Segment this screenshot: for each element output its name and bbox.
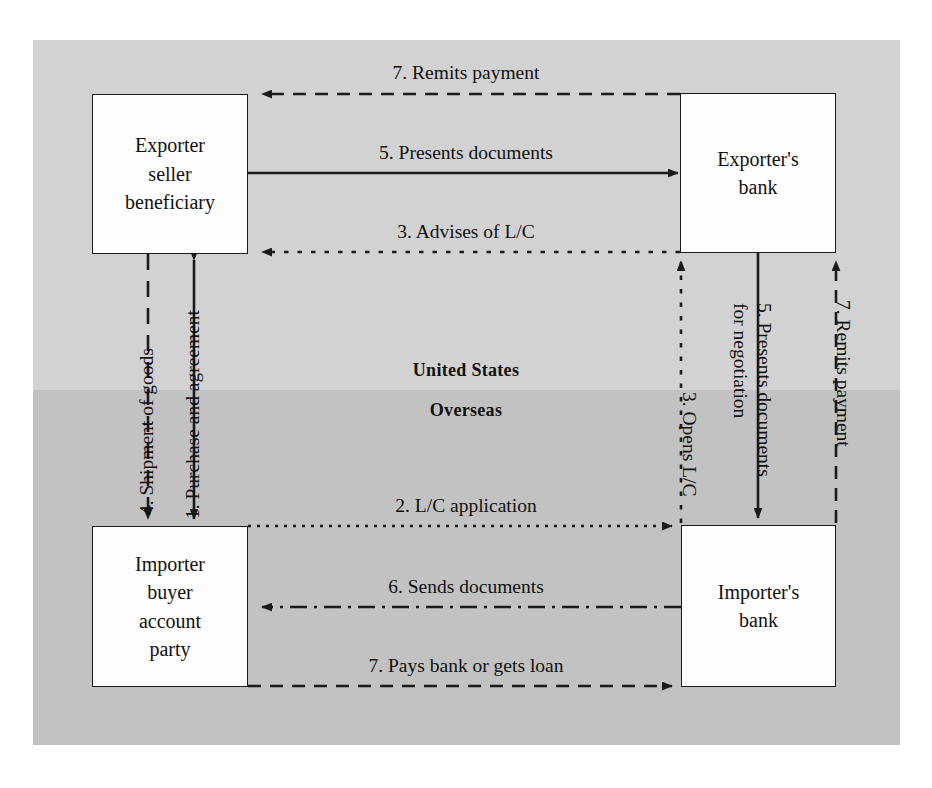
node-importer-line-1: Importer [135, 550, 205, 578]
flow-label-2-lc-application: 2. L/C application [395, 495, 536, 517]
flow-label-7-pays-bank-or-gets-loan: 7. Pays bank or gets loan [369, 655, 564, 677]
node-importer-line-3: account [139, 607, 201, 635]
node-importer-line-2: buyer [147, 578, 193, 606]
flow-label-4-shipment-of-goods: 4. Shipment of goods [136, 348, 158, 515]
diagram-canvas: Exporter seller beneficiary Exporter's b… [0, 0, 932, 788]
node-exporter-line-3: beneficiary [125, 188, 215, 216]
flow-label-5-presents-documents: 5. Presents documents [379, 142, 553, 164]
flow-label-5-presents-documents-for-negotiation: 5. Presents documents for negotiation [727, 303, 776, 513]
node-importer: Importer buyer account party [92, 526, 248, 687]
node-exporters-bank-line-1: Exporter's [717, 145, 798, 173]
flow-label-5-negotiation-line-2: for negotiation [730, 303, 751, 418]
node-exporter-line-1: Exporter [135, 131, 205, 159]
zone-label-united-states: United States [413, 360, 519, 381]
node-exporter-line-2: seller [148, 160, 191, 188]
node-exporter: Exporter seller beneficiary [92, 94, 248, 254]
zone-label-overseas: Overseas [430, 400, 502, 421]
flow-label-6-sends-documents: 6. Sends documents [388, 576, 543, 598]
node-importers-bank-line-1: Importer's [718, 578, 799, 606]
node-importers-bank: Importer's bank [681, 525, 836, 687]
flow-label-1-purchase-and-agreement: 1. Purchase and agreement [182, 310, 204, 519]
flow-label-3-advises-of-lc: 3. Advises of L/C [397, 221, 535, 243]
node-exporters-bank: Exporter's bank [680, 93, 836, 253]
node-importers-bank-line-2: bank [739, 606, 778, 634]
node-importer-line-4: party [149, 635, 190, 663]
flow-label-3-opens-lc: 3. Opens L/C [678, 392, 700, 497]
flow-label-5-negotiation-line-1: 5. Presents documents [754, 303, 775, 477]
flow-label-7-remits-payment-top: 7. Remits payment [393, 62, 540, 84]
node-exporters-bank-line-2: bank [739, 173, 778, 201]
flow-label-7-remits-payment-right: 7. Remits payment [832, 300, 854, 447]
